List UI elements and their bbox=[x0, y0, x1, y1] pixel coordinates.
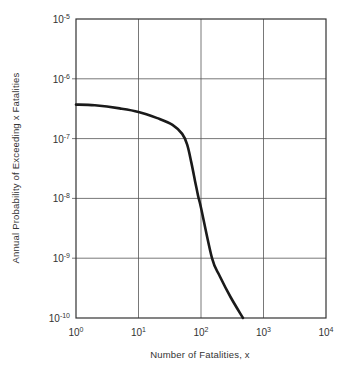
x-axis-label: Number of Fatalities, x bbox=[150, 349, 250, 360]
x-tick-label: 102 bbox=[193, 326, 208, 338]
y-tick-label: 10-7 bbox=[53, 133, 70, 145]
x-tick-label: 100 bbox=[68, 326, 83, 338]
x-tick-label: 103 bbox=[256, 326, 271, 338]
y-axis-ticks: 10-510-610-710-810-910-10 bbox=[49, 13, 70, 324]
y-tick-label: 10-10 bbox=[49, 312, 70, 324]
y-tick-label: 10-6 bbox=[53, 73, 70, 85]
x-tick-label: 101 bbox=[131, 326, 146, 338]
y-axis-label: Annual Probability of Exceeding x Fatali… bbox=[10, 72, 21, 263]
y-tick-label: 10-9 bbox=[53, 252, 70, 264]
y-tick-label: 10-5 bbox=[53, 13, 70, 25]
exceedance-curve bbox=[76, 105, 243, 318]
y-tick-label: 10-8 bbox=[53, 192, 70, 204]
chart: 10-510-610-710-810-910-10 10010110210310… bbox=[0, 0, 346, 373]
grid-lines bbox=[72, 19, 326, 318]
x-tick-label: 104 bbox=[318, 326, 333, 338]
x-axis-ticks: 100101102103104 bbox=[68, 326, 333, 338]
